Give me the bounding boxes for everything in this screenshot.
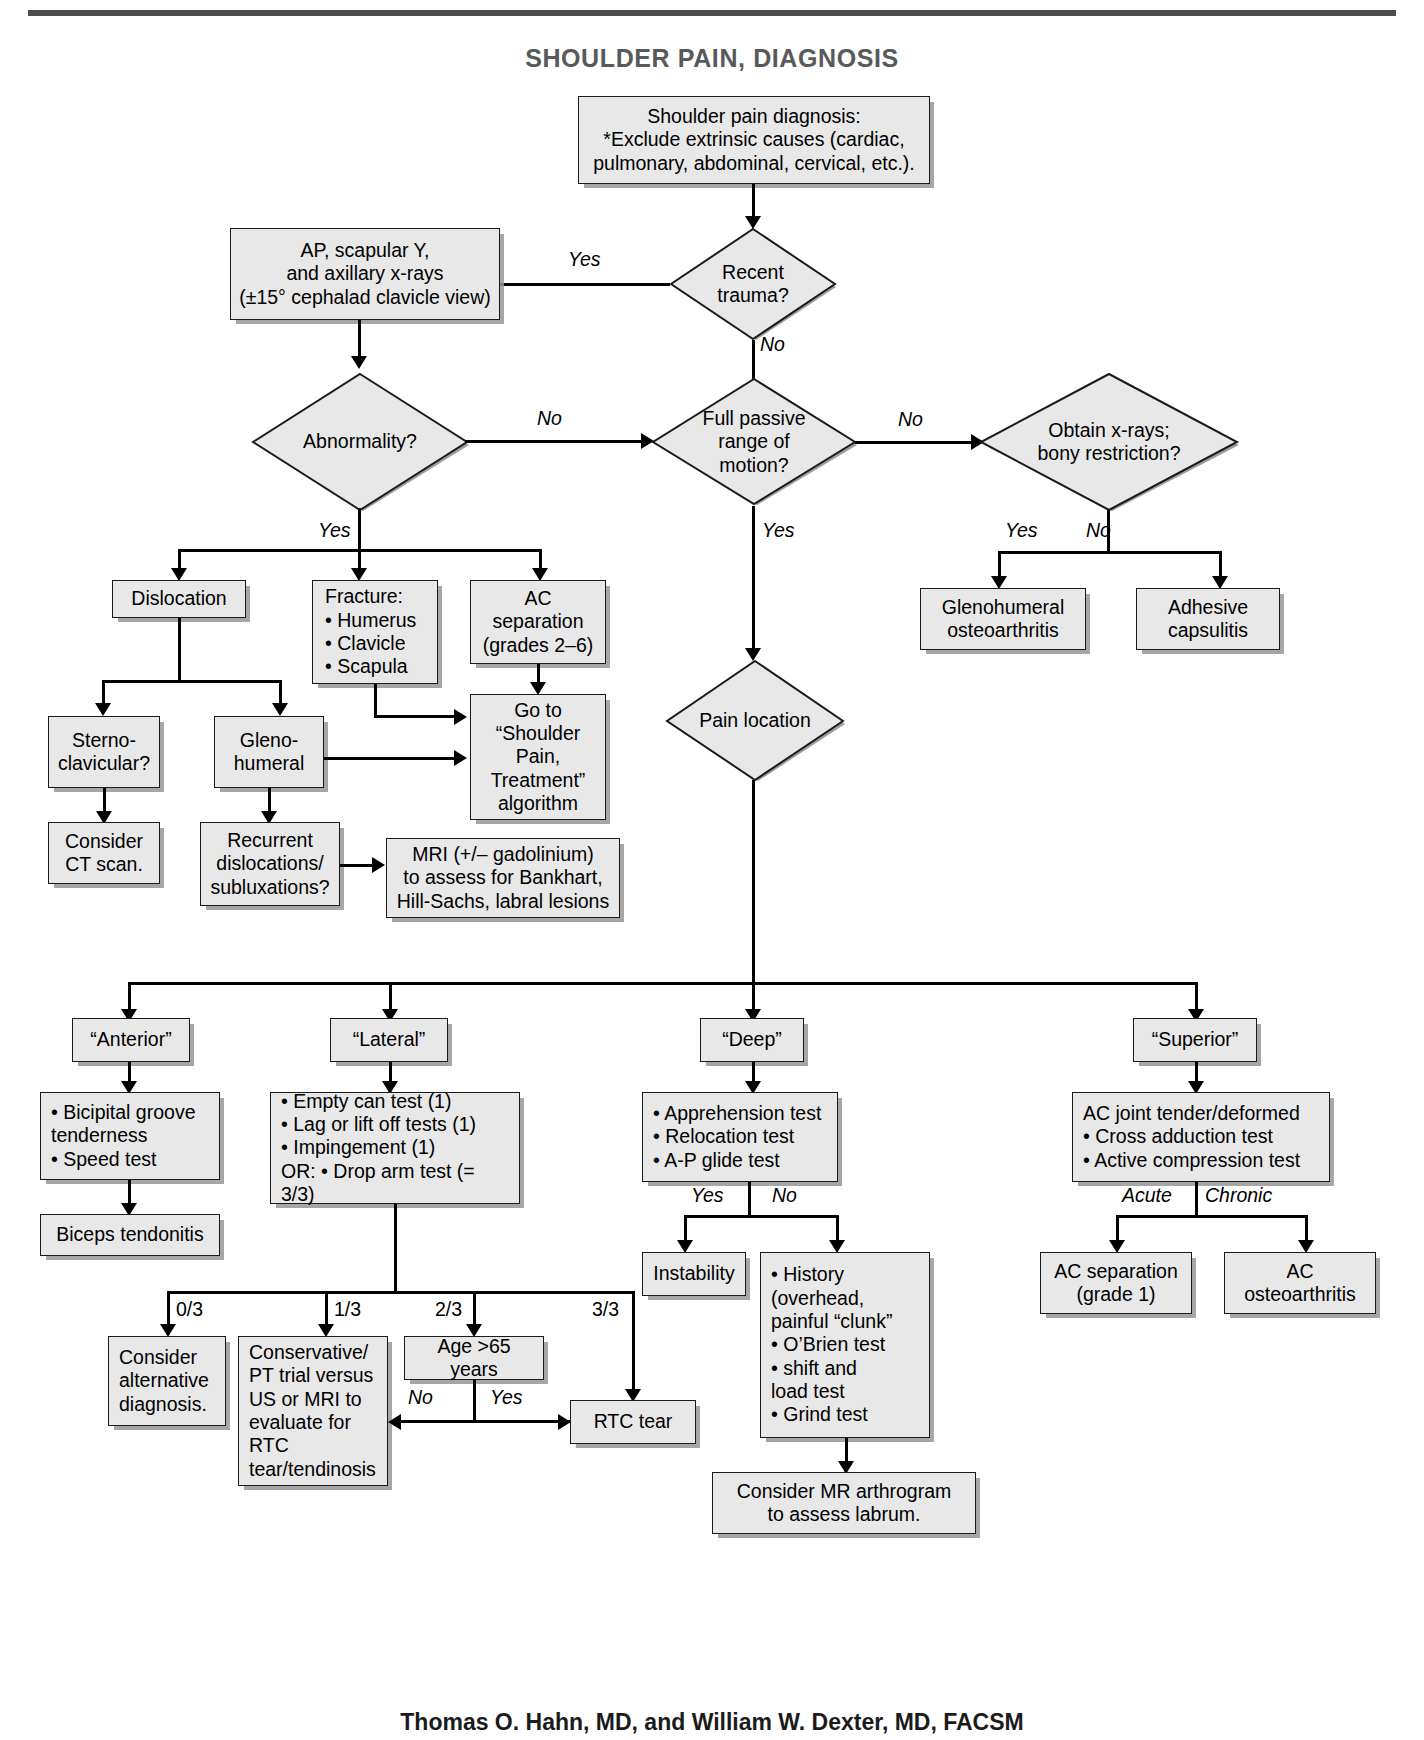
edge-label-trauma-no: No [760,333,785,356]
edge-to-deep [752,982,755,1012]
edge-label-bony-no: No [1086,519,1111,542]
edge-glenohumeral-to-goto [324,757,456,760]
edge-label-deep-yes: Yes [691,1184,724,1207]
node-dislocation: Dislocation [112,580,246,618]
edge-fracture-right [374,715,456,718]
node-lateral-tests: • Empty can test (1) • Lag or lift off t… [270,1092,520,1204]
edge-xrays-to-abnormality [358,320,361,360]
edge-to-anterior [128,982,131,1012]
diamond-label: Recent trauma? [717,261,789,308]
node-deep-tests: • Apprehension test • Relocation test • … [642,1092,838,1182]
edge-score-1 [325,1291,328,1327]
node-deep: “Deep” [700,1018,804,1062]
node-glenohumeral: Gleno- humeral [214,716,324,788]
node-superior-tests: AC joint tender/deformed • Cross adducti… [1072,1092,1330,1182]
flowchart-page: SHOULDER PAIN, DIAGNOSIS Shoulder pain d… [0,0,1424,1740]
arrowhead-down [95,703,111,716]
edge-label-score-2: 2/3 [435,1298,462,1321]
diamond-label: Obtain x-rays; bony restriction? [1037,419,1180,466]
edge-pain-location-bus [128,982,1198,985]
node-xrays: AP, scapular Y, and axillary x-rays (±15… [230,228,500,320]
edge-dislocation-stem [178,618,181,682]
edge-label-score-1: 1/3 [334,1298,361,1321]
edge-label-score-3: 3/3 [592,1298,619,1321]
edge-label-trauma-yes: Yes [568,248,601,271]
edge-label-deep-no: No [772,1184,797,1207]
edge-label-superior-chronic: Chronic [1205,1184,1272,1207]
edge-deep-tests-stem [748,1182,751,1218]
node-lateral: “Lateral” [330,1018,448,1062]
edge-start-to-trauma [752,184,755,218]
node-conservative-pt: Conservative/ PT trial versus US or MRI … [238,1336,388,1486]
arrowhead-down [272,703,288,716]
node-age-65: Age >65 years [404,1336,544,1380]
top-rule [28,10,1396,16]
edge-to-lateral [389,982,392,1012]
edge-superior-tests-stem [1195,1182,1198,1218]
node-consider-alternative: Consider alternative diagnosis. [108,1336,226,1426]
edge-score-bus [167,1291,635,1294]
diamond-abnormality: Abnormality? [248,372,472,512]
edge-label-abnormality-no: No [537,407,562,430]
edge-age-split [400,1420,570,1423]
arrowhead-left [388,1414,401,1430]
edge-deep-no [836,1215,839,1243]
edge-fracture-down [374,684,377,717]
node-consider-ct: Consider CT scan. [48,822,160,884]
edge-recurrent-to-mri [340,864,376,867]
arrowhead-right [454,709,467,725]
edge-bony-split [998,551,1222,554]
node-instability: Instability [642,1252,746,1296]
page-title: SHOULDER PAIN, DIAGNOSIS [0,44,1424,73]
edge-label-rom-no: No [898,408,923,431]
edge-pain-location-stem [752,780,755,985]
node-biceps-tendonitis: Biceps tendonitis [40,1214,220,1256]
edge-superior-chronic [1305,1215,1308,1243]
node-consider-mr-arthrogram: Consider MR arthrogram to assess labrum. [712,1472,976,1534]
edge-label-rom-yes: Yes [762,519,795,542]
diamond-label: Pain location [699,709,811,732]
diamond-label: Full passive range of motion? [703,407,806,477]
node-rtc-tear: RTC tear [570,1400,696,1444]
edge-age-stem [473,1380,476,1422]
edge-dislocation-split [102,680,282,683]
node-sternoclavicular: Sterno- clavicular? [48,716,160,788]
edge-rom-no [855,441,975,444]
edge-deep-yes [684,1215,687,1243]
node-recurrent-dislocations: Recurrent dislocations/ subluxations? [200,822,340,906]
edge-bony-yes [998,551,1001,579]
edge-deep-split [684,1215,839,1218]
arrowhead-right [372,857,385,873]
edge-lateral-tests-stem [394,1204,397,1294]
edge-label-bony-yes: Yes [1005,519,1038,542]
node-adhesive-capsulitis: Adhesive capsulitis [1136,588,1280,650]
diamond-obtain-xrays: Obtain x-rays; bony restriction? [976,372,1242,512]
node-ac-separation-grades: AC separation (grades 2–6) [470,580,606,664]
diamond-full-passive-rom: Full passive range of motion? [648,378,860,506]
edge-bony-no [1219,551,1222,579]
diamond-pain-location: Pain location [662,660,848,782]
edge-rom-yes [752,506,755,652]
node-glenohumeral-osteoarthritis: Glenohumeral osteoarthritis [920,588,1086,650]
arrowhead-down [351,356,367,369]
node-superior: “Superior” [1133,1018,1257,1062]
arrowhead-right [558,1414,571,1430]
node-ac-osteoarthritis: AC osteoarthritis [1224,1252,1376,1314]
edge-score-3 [632,1291,635,1392]
edge-label-age-yes: Yes [490,1386,523,1409]
edge-label-abnormality-yes: Yes [318,519,351,542]
edge-superior-split [1116,1215,1308,1218]
edge-abnormality-yes-stem [358,508,361,552]
edge-to-superior [1195,982,1198,1012]
edge-label-score-0: 0/3 [176,1298,203,1321]
node-anterior-tests: • Bicipital groove tenderness • Speed te… [40,1092,220,1180]
diamond-label: Abnormality? [303,430,417,453]
edge-trauma-yes [500,283,670,286]
edge-score-0 [167,1291,170,1327]
diamond-recent-trauma: Recent trauma? [668,228,838,340]
edge-abnormality-no [465,440,645,443]
node-mri-gadolinium: MRI (+/– gadolinium) to assess for Bankh… [386,838,620,918]
edge-label-age-no: No [408,1386,433,1409]
figure-caption: Thomas O. Hahn, MD, and William W. Dexte… [0,1709,1424,1736]
edge-label-superior-acute: Acute [1122,1184,1172,1207]
